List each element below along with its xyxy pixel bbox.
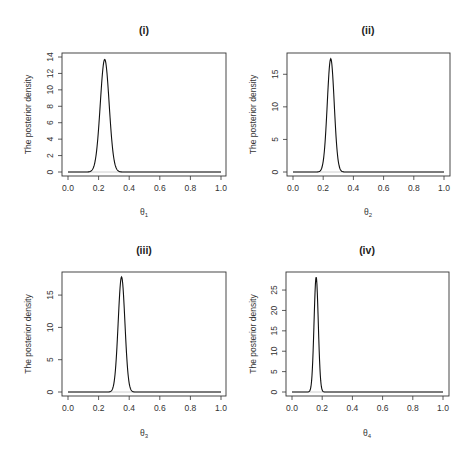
- panel-title: (iv): [359, 244, 375, 256]
- y-tick-label: 15: [270, 69, 280, 79]
- y-tick-label: 0: [269, 389, 279, 394]
- x-axis: 0.00.20.40.60.81.0: [62, 176, 227, 193]
- y-tick-label: 10: [45, 85, 55, 95]
- x-tick-label: 0.4: [347, 183, 359, 193]
- x-tick-label: 0.2: [93, 403, 105, 413]
- y-axis: 051015: [45, 290, 62, 394]
- panel-2: (ii)0.00.20.40.60.81.0θ2051015The poster…: [248, 24, 450, 218]
- x-axis: 0.00.20.40.60.81.0: [286, 396, 449, 413]
- x-axis-label: θ4: [363, 428, 372, 439]
- panel-title: (ii): [362, 24, 375, 36]
- y-tick-label: 0: [270, 169, 280, 174]
- y-tick-label: 4: [45, 137, 55, 142]
- x-axis-label: θ1: [140, 207, 149, 218]
- x-tick-label: 0.2: [317, 183, 329, 193]
- x-tick-label: 0.8: [184, 403, 196, 413]
- x-tick-label: 0.2: [316, 403, 328, 413]
- density-curve: [292, 277, 443, 392]
- y-axis-label: The posterior density: [248, 74, 258, 154]
- panel-title: (iii): [136, 244, 152, 256]
- x-tick-label: 0.4: [123, 403, 135, 413]
- panel-1: (i)0.00.20.40.60.81.0θ102468101214The po…: [23, 24, 227, 218]
- plot-frame: [286, 272, 449, 396]
- x-tick-label: 0.0: [286, 403, 298, 413]
- x-tick-label: 0.6: [377, 403, 389, 413]
- y-axis-label: The posterior density: [23, 294, 33, 374]
- y-tick-label: 5: [269, 369, 279, 374]
- x-tick-label: 0.6: [154, 403, 166, 413]
- x-tick-label: 0.0: [287, 183, 299, 193]
- panel-title: (i): [139, 24, 149, 36]
- x-tick-label: 0.8: [407, 403, 419, 413]
- x-axis: 0.00.20.40.60.81.0: [62, 396, 227, 413]
- plot-frame: [62, 272, 226, 396]
- y-tick-label: 6: [45, 120, 55, 125]
- x-tick-label: 0.0: [62, 403, 74, 413]
- y-tick-label: 5: [45, 357, 55, 362]
- density-curve: [293, 59, 444, 172]
- plot-frame: [287, 53, 450, 176]
- y-tick-label: 5: [270, 137, 280, 142]
- x-tick-label: 0.4: [346, 403, 358, 413]
- y-axis-label: The posterior density: [248, 294, 258, 374]
- x-axis: 0.00.20.40.60.81.0: [287, 176, 450, 193]
- y-tick-label: 2: [45, 153, 55, 158]
- y-tick-label: 10: [45, 322, 55, 332]
- y-tick-label: 25: [269, 285, 279, 295]
- x-tick-label: 1.0: [215, 183, 227, 193]
- density-curve: [68, 59, 221, 172]
- y-tick-label: 10: [269, 346, 279, 356]
- y-tick-label: 8: [45, 104, 55, 109]
- plot-frame: [62, 53, 226, 176]
- x-tick-label: 1.0: [215, 403, 227, 413]
- panel-3: (iii)0.00.20.40.60.81.0θ3051015The poste…: [23, 244, 227, 439]
- y-tick-label: 10: [270, 102, 280, 112]
- x-tick-label: 0.4: [123, 183, 135, 193]
- x-axis-label: θ3: [140, 428, 149, 439]
- panel-4: (iv)0.00.20.40.60.81.0θ40510152025The po…: [248, 244, 449, 439]
- x-tick-label: 1.0: [437, 403, 449, 413]
- y-tick-label: 15: [45, 290, 55, 300]
- y-axis-label: The posterior density: [23, 74, 33, 154]
- x-tick-label: 0.2: [93, 183, 105, 193]
- y-tick-label: 20: [269, 305, 279, 315]
- x-axis-label: θ2: [364, 207, 373, 218]
- density-curve: [68, 277, 221, 392]
- y-tick-label: 14: [45, 52, 55, 62]
- x-tick-label: 0.6: [378, 183, 390, 193]
- y-axis: 0510152025: [269, 285, 286, 394]
- x-tick-label: 0.6: [154, 183, 166, 193]
- y-axis: 051015: [270, 69, 287, 174]
- y-tick-label: 12: [45, 68, 55, 78]
- x-tick-label: 0.0: [62, 183, 74, 193]
- y-axis: 02468101214: [45, 52, 62, 174]
- y-tick-label: 0: [45, 169, 55, 174]
- y-tick-label: 0: [45, 389, 55, 394]
- posterior-density-figure: (i)0.00.20.40.60.81.0θ102468101214The po…: [0, 0, 473, 456]
- x-tick-label: 1.0: [438, 183, 450, 193]
- y-tick-label: 15: [269, 326, 279, 336]
- x-tick-label: 0.8: [408, 183, 420, 193]
- x-tick-label: 0.8: [184, 183, 196, 193]
